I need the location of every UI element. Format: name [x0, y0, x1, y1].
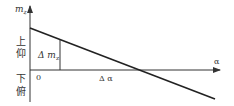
x-axis-label: α	[214, 57, 220, 66]
origin-label: 0	[36, 73, 41, 82]
lower-label-2: 俯	[16, 85, 26, 97]
y-axis-label: mz	[15, 4, 28, 15]
moment-line	[30, 28, 215, 99]
lower-label-1: 下	[16, 73, 26, 84]
delta-alpha-label: Δ α	[99, 74, 113, 83]
upper-label-2: 仰	[16, 48, 26, 59]
delta-m-label: Δ mz	[37, 50, 59, 61]
upper-label-1: 上	[16, 36, 26, 47]
pitch-moment-diagram: mz 上 仰 下 俯 Δ mz 0 Δ α α	[0, 0, 234, 106]
